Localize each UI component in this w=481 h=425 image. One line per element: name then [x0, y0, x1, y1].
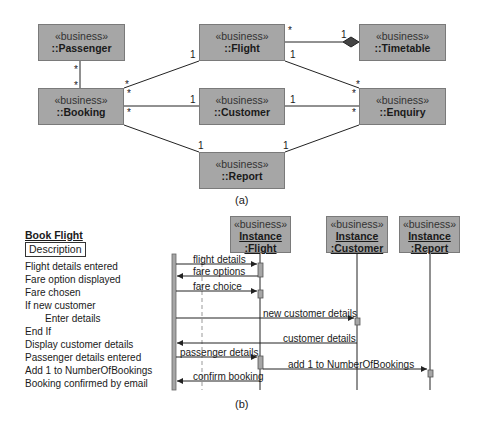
use-case-title: Book Flight [25, 229, 83, 241]
multiplicity: * [74, 81, 78, 91]
class-customer: «business» ::Customer [199, 88, 285, 125]
instance-label: Instance [231, 230, 290, 242]
message-label: passenger details [180, 348, 258, 358]
multiplicity: * [127, 89, 131, 99]
multiplicity: * [356, 80, 360, 90]
multiplicity: * [352, 108, 356, 118]
message-label: fare choice [193, 282, 242, 292]
multiplicity: 1 [198, 141, 204, 151]
instance-label: Instance [327, 230, 387, 242]
caption-b: (b) [235, 398, 248, 410]
instance-class: :Flight [231, 242, 290, 254]
class-report: «business» ::Report [199, 152, 285, 189]
instance-class: :Customer [327, 242, 387, 254]
step: Fare chosen [25, 287, 81, 299]
instance-customer: «business» Instance :Customer [326, 216, 388, 253]
instance-label: Instance [400, 230, 459, 242]
stereotype-label: «business» [200, 30, 284, 42]
class-name: ::Customer [200, 106, 284, 118]
message-label: new customer details [263, 309, 357, 319]
step: Enter details [45, 313, 101, 325]
stereotype-label: «business» [400, 218, 459, 230]
multiplicity: * [352, 89, 356, 99]
step: Display customer details [25, 339, 133, 351]
stereotype-label: «business» [39, 30, 124, 42]
multiplicity: * [288, 26, 292, 36]
stereotype-label: «business» [327, 218, 387, 230]
class-booking: «business» ::Booking [38, 88, 124, 125]
multiplicity: 1 [190, 50, 196, 60]
message-label: add 1 to NumberOfBookings [288, 360, 414, 370]
class-enquiry: «business» ::Enquiry [359, 88, 446, 125]
step: Fare option displayed [25, 274, 121, 286]
stereotype-label: «business» [200, 94, 284, 106]
class-name: ::Passenger [39, 42, 124, 54]
step: If new customer [25, 300, 96, 312]
class-name: ::Booking [39, 106, 123, 118]
multiplicity: 1 [290, 95, 296, 105]
multiplicity: * [74, 65, 78, 75]
class-name: ::Flight [200, 42, 284, 54]
multiplicity: 1 [283, 141, 289, 151]
multiplicity: 1 [341, 30, 347, 40]
stereotype-label: «business» [39, 94, 123, 106]
stereotype-label: «business» [231, 218, 290, 230]
step: Passenger details entered [25, 352, 141, 364]
instance-flight: «business» Instance :Flight [230, 216, 291, 253]
step: Booking confirmed by email [25, 378, 148, 390]
caption-a: (a) [235, 194, 248, 206]
class-passenger: «business» ::Passenger [38, 24, 125, 61]
class-name: ::Timetable [360, 42, 445, 54]
description-label: Description [25, 242, 86, 257]
message-label: fare options [193, 267, 245, 277]
step: End If [25, 326, 51, 338]
message-label: customer details [283, 334, 356, 344]
class-name: ::Enquiry [360, 106, 445, 118]
message-label: flight details [193, 255, 246, 265]
class-flight: «business» ::Flight [199, 24, 285, 61]
stereotype-label: «business» [360, 30, 445, 42]
multiplicity: * [127, 108, 131, 118]
multiplicity: 1 [290, 50, 296, 60]
message-label: confirm booking [193, 372, 264, 382]
instance-class: :Report [400, 242, 459, 254]
multiplicity: 1 [190, 95, 196, 105]
stereotype-label: «business» [360, 94, 445, 106]
instance-report: «business» Instance :Report [399, 216, 460, 253]
stereotype-label: «business» [200, 158, 284, 170]
step: Flight details entered [25, 261, 118, 273]
class-name: ::Report [200, 170, 284, 182]
class-timetable: «business» ::Timetable [359, 24, 446, 61]
step: Add 1 to NumberOfBookings [25, 365, 152, 377]
